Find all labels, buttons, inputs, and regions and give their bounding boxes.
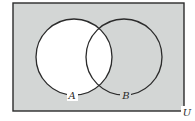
universe-label: U — [183, 107, 192, 118]
shaded-region-complement-a — [13, 3, 184, 111]
set-b-label: B — [121, 90, 129, 101]
venn-diagram: A B U — [0, 0, 195, 121]
set-a-label: A — [67, 90, 75, 101]
